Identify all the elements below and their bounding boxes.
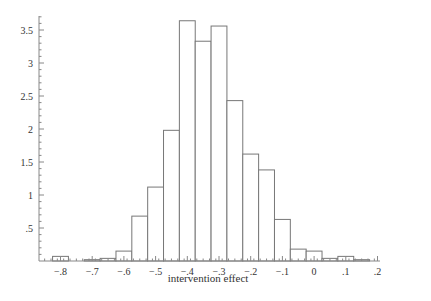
histogram-bars [53, 21, 370, 261]
x-tick-label: −.6 [117, 266, 130, 277]
y-tick-label: 1.5 [21, 157, 34, 168]
y-tick-label: .5 [26, 223, 34, 234]
histogram-bar [179, 21, 195, 261]
histogram-chart: .511.522.533.5−.8−.7−.6−.5−.4−.3−.2−.10.… [0, 0, 431, 301]
x-tick-label: .1 [342, 266, 350, 277]
histogram-bar [211, 26, 227, 261]
y-tick-label: 3 [28, 58, 33, 69]
x-tick-label: .2 [374, 266, 382, 277]
histogram-bar [259, 170, 275, 261]
y-tick-label: 2.5 [21, 91, 34, 102]
histogram-bar [195, 41, 211, 261]
x-tick-label: 0 [312, 266, 317, 277]
histogram-bar [243, 154, 259, 261]
x-tick-label: −.7 [86, 266, 99, 277]
x-tick-label: −.5 [149, 266, 162, 277]
x-tick-label: −.1 [276, 266, 289, 277]
histogram-bar [132, 216, 148, 261]
histogram-bar [148, 187, 164, 261]
y-tick-label: 3.5 [21, 25, 34, 36]
y-tick-label: 1 [28, 190, 33, 201]
x-axis-label: intervention effect [168, 272, 249, 284]
histogram-bar [164, 130, 180, 261]
x-tick-label: −.8 [54, 266, 67, 277]
histogram-bar [227, 101, 243, 261]
histogram-bar [274, 219, 290, 261]
y-tick-label: 2 [28, 124, 33, 135]
